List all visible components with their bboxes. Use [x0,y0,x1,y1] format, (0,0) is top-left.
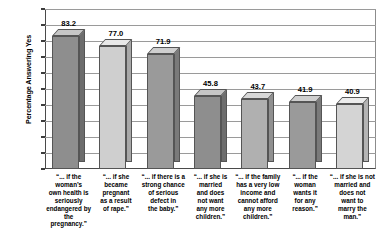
y-axis-tick-mark [41,120,45,121]
bar-value-label: 77.0 [91,29,140,38]
bar-front-face [52,36,79,169]
gridline [45,57,376,58]
x-axis-category-label: “... if shebecamepregnantas a resultof r… [92,173,139,213]
plot-area: 100908070605040302010083.277.071.945.843… [45,9,376,169]
x-axis-category-labels: “... if thewoman’sown health isseriously… [45,173,376,239]
bar [147,47,174,169]
bar [52,29,79,169]
y-axis-title: Percentage Answering Yes [24,5,33,155]
bar-side-face [79,29,85,162]
x-axis-category-label: “... if thewoman’sown health isseriously… [45,173,92,228]
x-axis-category-label: “... if there is astrong chanceof seriou… [140,173,187,213]
bar [289,95,316,169]
bar-front-face [289,102,316,169]
bar-side-face [363,97,369,162]
gridline [45,25,376,26]
bar-side-face [221,89,227,162]
gridline [45,73,376,74]
bar-side-face [268,92,274,162]
gridline [45,41,376,42]
y-axis-tick-mark [41,136,45,137]
bar-value-label: 45.8 [186,79,235,88]
bar-front-face [241,99,268,169]
y-axis-tick-mark [41,72,45,73]
x-axis-category-label: “... if the familyhas a very lowincome a… [234,173,281,220]
bar-side-face [316,95,322,162]
bar [99,39,126,169]
gridline [45,9,376,10]
x-axis-category-label: “... if she is notmarried anddoes notwan… [329,173,376,220]
bar-front-face [336,104,363,169]
bar-value-label: 71.9 [139,37,188,46]
x-axis-category-label: “... if she ismarriedand doesnot wantany… [187,173,234,220]
bar-value-label: 43.7 [233,82,282,91]
bar-top-face [289,95,322,102]
y-axis-tick-mark [41,40,45,41]
bar-value-label: 83.2 [44,19,93,28]
bar-value-label: 40.9 [328,87,377,96]
bar-side-face [174,47,180,162]
x-axis-category-label: “... if thewomanwants itfor anyreason.” [281,173,328,213]
bar-value-label: 41.9 [281,85,330,94]
bar [194,89,221,169]
y-axis-tick-mark [41,8,45,9]
y-axis-tick-mark [41,88,45,89]
bar-front-face [147,54,174,169]
bar-front-face [99,46,126,169]
y-axis-tick-mark [41,104,45,105]
y-axis-tick-mark [41,152,45,153]
y-axis-tick-mark [41,168,45,169]
bar [336,97,363,169]
bar-side-face [126,39,132,162]
bar-chart: Percentage Answering Yes 100908070605040… [0,0,379,239]
bar-top-face [336,97,369,104]
y-axis-tick-mark [41,56,45,57]
bar-front-face [194,96,221,169]
bar [241,92,268,169]
